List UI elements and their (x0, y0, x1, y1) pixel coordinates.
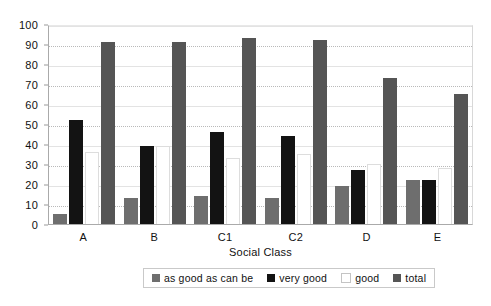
y-tick-label: 10 (25, 200, 38, 211)
legend-label: very good (279, 272, 327, 284)
bar (140, 146, 154, 224)
bar (454, 94, 468, 224)
bar-chart: 1009080706050403020100 ABC1C2DE Social C… (0, 0, 491, 306)
legend-item[interactable]: total (393, 272, 426, 284)
x-axis-title: Social Class (48, 246, 473, 258)
bar (406, 180, 420, 224)
x-tick-label: C2 (260, 228, 331, 248)
x-tick-label: D (331, 228, 402, 248)
bar (422, 180, 436, 224)
legend-swatch-icon (341, 273, 351, 283)
bar (226, 158, 240, 224)
legend-item[interactable]: very good (267, 272, 327, 284)
y-tick-label: 100 (19, 20, 38, 31)
y-tick-label: 60 (25, 100, 38, 111)
y-axis: 1009080706050403020100 (0, 25, 44, 225)
bar (156, 146, 170, 224)
x-tick-label: E (402, 228, 473, 248)
bar (242, 38, 256, 224)
bar-group-d (331, 26, 402, 224)
legend-swatch-icon (152, 274, 160, 282)
bar (313, 40, 327, 224)
y-tick-label: 0 (32, 220, 38, 231)
y-tick-label: 50 (25, 120, 38, 131)
bar (69, 120, 83, 224)
bar (172, 42, 186, 224)
bar (351, 170, 365, 224)
legend-label: good (355, 272, 379, 284)
legend-label: as good as can be (164, 272, 253, 284)
bar (101, 42, 115, 224)
x-tick-label: C1 (190, 228, 261, 248)
bar (297, 154, 311, 224)
bar (367, 164, 381, 224)
y-tick-label: 20 (25, 180, 38, 191)
bar-group-c2 (261, 26, 332, 224)
x-axis: ABC1C2DE (48, 228, 473, 248)
chart-legend: as good as can bevery goodgoodtotal (143, 268, 435, 288)
bar (335, 186, 349, 224)
x-tick-label: B (119, 228, 190, 248)
y-tick-label: 30 (25, 160, 38, 171)
x-tick-label: A (48, 228, 119, 248)
bar (383, 78, 397, 224)
legend-item[interactable]: as good as can be (152, 272, 253, 284)
bar-group-b (120, 26, 191, 224)
bar (265, 198, 279, 224)
legend-swatch-icon (393, 274, 401, 282)
bar (53, 214, 67, 224)
y-tick-label: 70 (25, 80, 38, 91)
bar-group-a (49, 26, 120, 224)
legend-swatch-icon (267, 274, 275, 282)
y-tick-label: 90 (25, 40, 38, 51)
y-tick-label: 80 (25, 60, 38, 71)
legend-label: total (405, 272, 426, 284)
plot-area (48, 25, 473, 225)
bar-groups (49, 26, 472, 224)
bar (124, 198, 138, 224)
bar-group-e (402, 26, 473, 224)
bar (210, 132, 224, 224)
bar (281, 136, 295, 224)
y-tick-label: 40 (25, 140, 38, 151)
legend-item[interactable]: good (341, 272, 379, 284)
bar (194, 196, 208, 224)
bar (85, 152, 99, 224)
bar-group-c1 (190, 26, 261, 224)
bar (438, 168, 452, 224)
